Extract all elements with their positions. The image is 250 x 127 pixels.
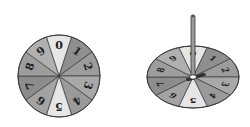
pointer-cap [191, 15, 195, 17]
spinner-digit: 5 [55, 100, 63, 113]
pointer-hub [190, 75, 197, 79]
flat-spinner: 0123456789 [18, 35, 100, 117]
spinner-figure: 0123456789 0123456789 [0, 0, 250, 127]
spinner-digit: 5 [189, 96, 196, 104]
pointer-rod [191, 15, 195, 78]
spinner-digit: 0 [55, 39, 63, 52]
